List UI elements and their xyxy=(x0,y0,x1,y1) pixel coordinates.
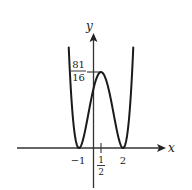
max-label-denominator: 16 xyxy=(72,72,85,83)
x-tick-label-neg1: −1 xyxy=(71,155,86,166)
y-axis-label: y xyxy=(85,19,93,33)
x-axis-label: x xyxy=(168,141,175,155)
x-tick-label-half-numerator: 1 xyxy=(98,155,104,165)
x-tick-label-half-denominator: 2 xyxy=(98,167,104,177)
x-tick-label-2: 2 xyxy=(120,155,126,166)
graph-canvas: y x 81 16 −1 1 2 2 xyxy=(0,0,192,190)
function-graph: y x 81 16 −1 1 2 2 xyxy=(0,0,192,190)
max-label-numerator: 81 xyxy=(72,59,85,70)
